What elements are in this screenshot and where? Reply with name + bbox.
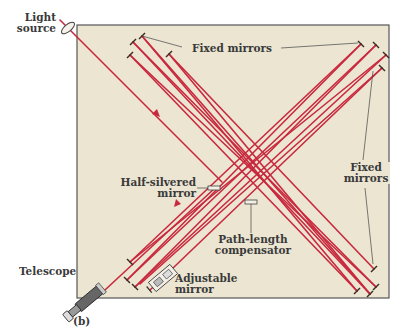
path-length-compensator-icon xyxy=(245,200,257,204)
label-fixed-mirrors-right: Fixed mirrors xyxy=(342,162,390,184)
half-silvered-mirror-icon xyxy=(208,186,220,190)
label-telescope: Telescope xyxy=(19,266,76,277)
label-adjustable-mirror: Adjustable mirror xyxy=(175,273,238,295)
label-fixed-mirrors-top: Fixed mirrors xyxy=(190,43,274,54)
label-fixed-mirrors-right-line2: mirrors xyxy=(342,173,390,184)
label-light-source: Light source xyxy=(16,12,56,34)
panel-label: (b) xyxy=(73,316,90,327)
label-path-length-line2: compensator xyxy=(210,245,296,256)
label-half-silvered-line2: mirror xyxy=(110,188,196,199)
label-half-silvered-mirror: Half-silvered mirror xyxy=(110,177,196,199)
label-adjustable-line2: mirror xyxy=(175,284,238,295)
label-light-source-line2: source xyxy=(16,23,56,34)
label-path-length-compensator: Path-length compensator xyxy=(210,234,296,256)
